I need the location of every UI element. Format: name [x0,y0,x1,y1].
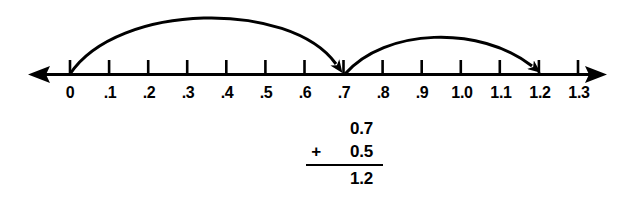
equation-addend2: 0.5 [339,141,383,163]
equation-addend1: 0.7 [339,118,383,140]
equation-addend2-row: + 0.5 [263,141,383,163]
jump-arc-second [345,37,532,74]
vertical-addition-equation: + 0.7 + 0.5 + 1.2 [263,118,383,190]
equation-operator: + [311,141,321,163]
equation-addend1-row: + 0.7 [263,118,383,140]
equation-sum: 1.2 [339,168,383,190]
number-line-graphic [0,0,635,115]
number-line-addition-figure: 0 .1 .2 .3 .4 .5 .6 .7 .8 .9 1.0 1.1 1.2… [0,0,635,207]
equation-rule [306,164,383,166]
equation-sum-row: + 1.2 [263,168,383,190]
tick-marks [70,60,578,75]
